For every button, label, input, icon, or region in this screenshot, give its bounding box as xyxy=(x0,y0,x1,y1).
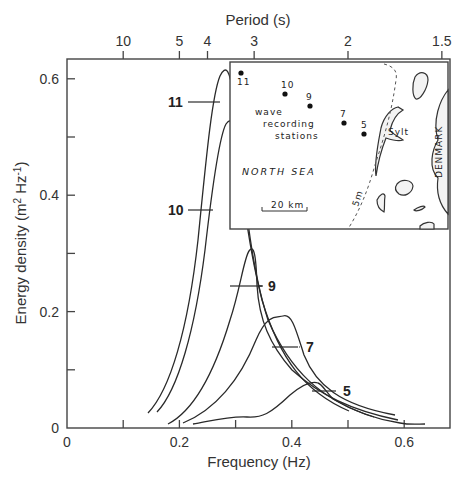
label-station-7: 7 xyxy=(306,339,314,355)
x-tick-label: 0.2 xyxy=(170,434,190,450)
x-axis-title: Frequency (Hz) xyxy=(207,453,310,470)
energy-spectrum-chart: 1054321.5 Period (s) 00.20.40.6 Frequenc… xyxy=(0,0,466,484)
station-5-label: 5 xyxy=(361,120,368,130)
x-tick-label: 0.6 xyxy=(394,434,414,450)
y-tick-label: 0 xyxy=(51,420,59,436)
legend-line-3: stations xyxy=(275,131,319,141)
curve-station-9 xyxy=(168,249,398,424)
station-7-marker xyxy=(341,120,346,125)
station-9-marker xyxy=(307,103,312,108)
period-tick-label: 2 xyxy=(344,33,352,49)
y-tick-label: 0.2 xyxy=(40,304,60,320)
period-tick-label: 4 xyxy=(204,33,212,49)
y-axis: 00.20.40.6 xyxy=(40,71,75,436)
scale-label: 20 km xyxy=(271,200,304,210)
station-11-label: 11 xyxy=(237,77,250,87)
top-axis-title: Period (s) xyxy=(225,11,290,28)
curve-station-7 xyxy=(183,316,395,423)
period-tick-label: 5 xyxy=(176,33,184,49)
legend-line-2: recording xyxy=(263,119,315,129)
top-period-axis: 1054321.5 xyxy=(115,33,451,59)
inset-map: DENMARK 5m 11 10 9 7 5 wave recording st… xyxy=(230,62,448,229)
y-axis-title: Energy density (m2 Hz-1) xyxy=(12,162,30,325)
y-tick-label: 0.4 xyxy=(40,187,60,203)
island-label: Sylt xyxy=(388,127,409,137)
label-station-11: 11 xyxy=(168,94,183,110)
sea-label: NORTH SEA xyxy=(242,166,316,177)
period-tick-label: 10 xyxy=(115,33,131,49)
country-label: DENMARK xyxy=(434,125,444,178)
period-tick-label: 3 xyxy=(250,33,258,49)
y-tick-label: 0.6 xyxy=(40,71,60,87)
station-9-label: 9 xyxy=(306,92,313,102)
station-10-marker xyxy=(282,91,287,96)
period-tick-label: 1.5 xyxy=(432,33,452,49)
x-tick-label: 0 xyxy=(63,434,71,450)
station-10-label: 10 xyxy=(281,80,294,90)
x-tick-label: 0.4 xyxy=(282,434,302,450)
station-5-marker xyxy=(361,131,366,136)
label-station-5: 5 xyxy=(343,383,351,399)
legend-line-1: wave xyxy=(255,107,283,117)
label-station-10: 10 xyxy=(168,202,184,218)
station-11-marker xyxy=(238,70,243,75)
station-7-label: 7 xyxy=(340,109,347,119)
x-axis: 00.20.40.6 xyxy=(63,420,414,450)
label-station-9: 9 xyxy=(268,278,276,294)
